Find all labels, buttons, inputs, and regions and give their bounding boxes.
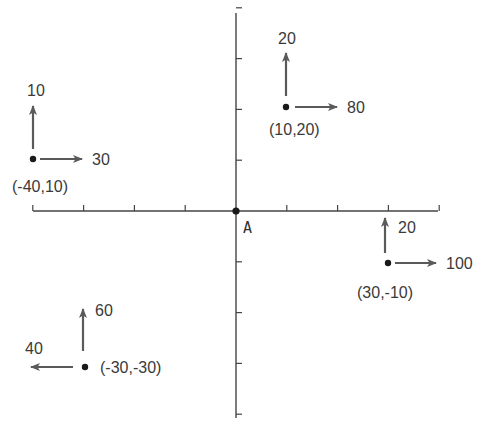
point-group-p2: 20 80 (10,20) [269,30,365,138]
diagram-canvas: A 10 30 (-40,10) 20 80 (10,20) 20 100 [0,0,492,438]
horiz-force-label: 100 [446,255,473,272]
origin-label: A [243,219,252,237]
coord-label: (30,-10) [357,284,413,301]
coord-label: (-30,-30) [100,359,161,376]
horiz-force-label: 40 [25,340,43,357]
axes: A [33,8,439,418]
up-force-label: 20 [398,219,416,236]
point-dot [82,364,88,370]
point-group-p1: 10 30 (-40,10) [12,82,110,195]
point-group-p3: 20 100 (30,-10) [357,218,473,301]
point-dot [283,104,289,110]
point-dot [385,260,391,266]
force-diagram: A 10 30 (-40,10) 20 80 (10,20) 20 100 [0,0,492,438]
point-group-p4: 60 40 (-30,-30) [25,302,161,376]
coord-label: (-40,10) [12,178,68,195]
point-dot [30,156,36,162]
up-force-label: 10 [27,82,45,99]
horiz-force-label: 30 [92,151,110,168]
horiz-force-label: 80 [347,99,365,116]
up-force-label: 60 [95,302,113,319]
up-force-label: 20 [278,30,296,47]
origin-point [232,207,239,214]
coord-label: (10,20) [269,121,320,138]
